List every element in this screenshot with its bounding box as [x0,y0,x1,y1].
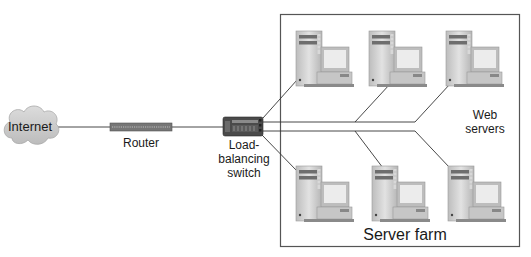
switch-label-line2: balancing [216,152,272,166]
web-servers-label-line2: servers [455,122,515,136]
server-computer-icon [372,166,430,222]
server-computer-icon [448,166,506,222]
web-servers-label: Web servers [455,108,515,136]
switch-label-line3: switch [216,166,272,180]
server-computer-icon [369,31,427,87]
server-computer-icon [296,166,354,222]
switch-label: Load- balancing switch [216,138,272,180]
server-farm-label: Server farm [350,226,460,244]
router-label: Router [116,136,166,150]
web-servers-label-line1: Web [455,108,515,122]
switch-label-line1: Load- [216,138,272,152]
server-computer-icon [446,31,504,87]
switch-icon [223,117,263,136]
server-computer-icon [296,31,354,87]
internet-label: Internet [6,120,54,134]
router-icon [110,123,172,131]
network-diagram [0,0,531,257]
